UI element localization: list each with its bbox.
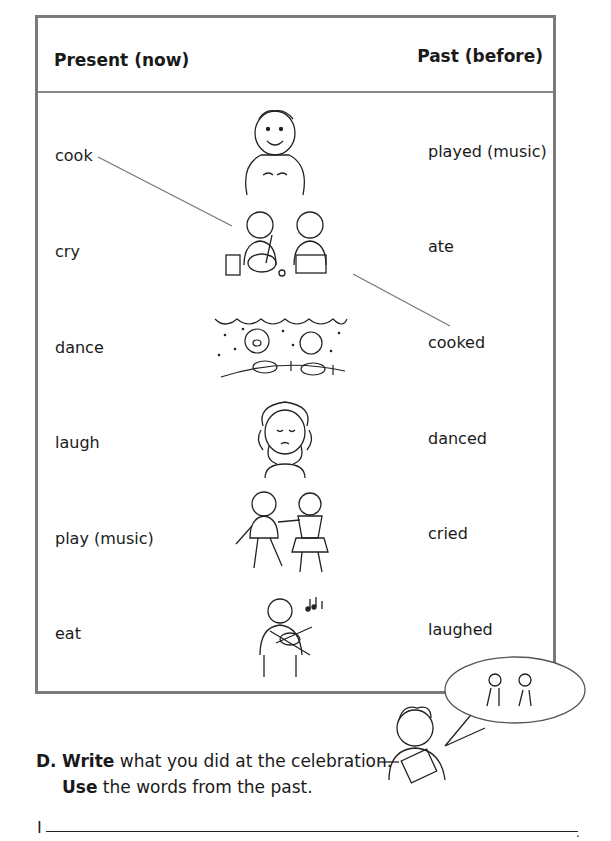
cooking-couple-illustration <box>222 205 342 280</box>
crying-girl-illustration <box>245 400 325 480</box>
instruction-bold: Write <box>62 751 114 771</box>
dancing-couple-illustration <box>230 488 340 580</box>
exercise-d-instructions: D.Write what you did at the celebration.… <box>36 748 392 800</box>
party-dinner-illustration <box>213 305 348 385</box>
exercise-letter: D. <box>36 748 62 774</box>
instruction-text: the words from the past. <box>97 777 312 797</box>
answer-start-word: I <box>37 818 42 837</box>
instruction-bold: Use <box>62 777 97 797</box>
answer-writing-line[interactable] <box>46 831 578 832</box>
instruction-text: what you did at the celebration. <box>114 751 392 771</box>
eating-man-illustration <box>235 105 315 200</box>
violin-player-illustration <box>250 595 330 680</box>
period: . <box>576 826 580 840</box>
thinking-boy-illustration <box>375 650 590 785</box>
